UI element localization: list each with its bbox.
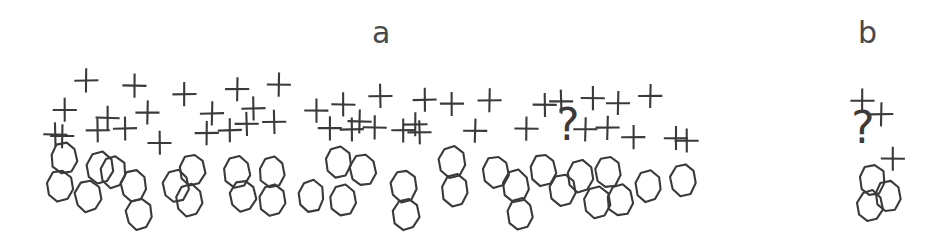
plus-marker-a-18[interactable] <box>114 118 136 140</box>
plus-marker-b-2[interactable] <box>882 147 904 169</box>
plus-marker-a-12[interactable] <box>370 85 392 107</box>
plus-marker-a-40[interactable] <box>404 114 426 136</box>
plus-marker-a-5[interactable] <box>54 99 76 121</box>
circle-marker-a-30[interactable] <box>298 180 324 212</box>
plus-marker-a-7[interactable] <box>137 101 159 123</box>
circle-marker-a-31[interactable] <box>163 170 189 202</box>
plus-marker-a-30[interactable] <box>582 87 604 109</box>
circle-marker-a-29[interactable] <box>224 156 250 188</box>
circle-marker-a-20[interactable] <box>507 198 533 230</box>
circle-marker-a-28[interactable] <box>670 164 696 196</box>
plus-marker-a-20[interactable] <box>196 122 218 144</box>
circle-marker-a-32[interactable] <box>87 152 113 184</box>
panel-label-b: b <box>858 18 877 48</box>
circle-marker-a-2[interactable] <box>75 180 101 212</box>
plus-marker-a-32[interactable] <box>639 85 661 107</box>
circle-marker-b-2[interactable] <box>857 190 883 222</box>
circle-marker-a-15[interactable] <box>393 198 419 230</box>
plus-marker-a-15[interactable] <box>479 89 501 111</box>
circle-marker-a-17[interactable] <box>442 174 468 206</box>
question-marker-b-0[interactable] <box>852 122 874 144</box>
plus-marker-a-1[interactable] <box>123 75 145 97</box>
figure-canvas: a b ?? <box>0 0 937 244</box>
plus-marker-a-28[interactable] <box>516 117 538 139</box>
plus-marker-a-2[interactable] <box>174 83 196 105</box>
plus-marker-a-42[interactable] <box>597 117 619 139</box>
plus-marker-a-43[interactable] <box>665 127 687 149</box>
plus-marker-a-31[interactable] <box>607 92 629 114</box>
circle-marker-a-13[interactable] <box>330 184 356 216</box>
plus-marker-a-41[interactable] <box>534 94 556 116</box>
plus-marker-a-19[interactable] <box>148 132 170 154</box>
plus-marker-a-14[interactable] <box>441 93 463 115</box>
circle-marker-a-27[interactable] <box>635 170 661 202</box>
circle-marker-a-10[interactable] <box>259 184 285 216</box>
plus-marker-a-34[interactable] <box>622 126 644 148</box>
plus-marker-a-27[interactable] <box>464 119 486 141</box>
circle-marker-a-1[interactable] <box>47 170 73 202</box>
plus-marker-a-38[interactable] <box>263 111 285 133</box>
plus-marker-a-17[interactable] <box>87 119 109 141</box>
circle-marker-a-12[interactable] <box>350 154 376 186</box>
circle-marker-a-26[interactable] <box>607 184 633 216</box>
question-marker-a-0[interactable] <box>557 119 579 141</box>
plus-marker-a-0[interactable] <box>76 69 98 91</box>
plus-marker-a-13[interactable] <box>414 89 436 111</box>
plus-marker-a-37[interactable] <box>219 119 241 141</box>
circle-marker-a-11[interactable] <box>325 146 351 178</box>
plus-marker-a-4[interactable] <box>268 73 290 95</box>
plus-marker-a-39[interactable] <box>349 111 371 133</box>
circle-marker-a-5[interactable] <box>126 198 152 230</box>
plus-marker-a-22[interactable] <box>319 117 341 139</box>
panel-label-a: a <box>372 18 390 48</box>
